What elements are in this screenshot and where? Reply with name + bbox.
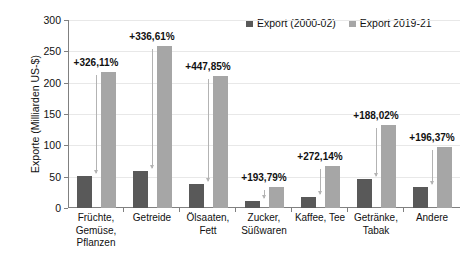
bar-export-2000-02 [357, 179, 372, 208]
bar-export-2000-02 [301, 197, 316, 208]
bar-export-2000-02 [413, 187, 428, 208]
y-tick-label: 200 [43, 77, 61, 89]
y-tick-label: 0 [55, 202, 61, 214]
x-axis-category-line: Andere [404, 212, 460, 225]
x-axis-category-line: Früchte, [68, 212, 124, 225]
growth-percentage-label: +196,37% [409, 132, 454, 143]
growth-percentage-label: +336,61% [129, 31, 174, 42]
bar-group: +196,37% [404, 20, 460, 208]
bar-chart: Export (2000-02) Export 2019-21 Exporte … [0, 0, 471, 268]
growth-percentage-label: +272,14% [297, 151, 342, 162]
x-axis-category-line: Kaffee, Tee [292, 212, 348, 225]
x-axis-category-line: Tabak [348, 225, 404, 238]
bar-group: +272,14% [292, 20, 348, 208]
growth-arrow-icon [96, 75, 97, 173]
x-axis-labels: Früchte,Gemüse,PflanzenGetreideÖlsaaten,… [68, 212, 460, 250]
growth-percentage-label: +326,11% [74, 57, 119, 68]
bar-export-2019-21 [157, 46, 172, 208]
y-tick-label: 150 [43, 108, 61, 120]
plot-area: 050100150200250300 +326,11%+336,61%+447,… [68, 20, 460, 208]
bar-export-2000-02 [245, 201, 260, 208]
y-tick-label: 50 [49, 171, 61, 183]
y-tick-mark [64, 208, 68, 209]
growth-percentage-label: +188,02% [353, 110, 398, 121]
x-axis-category-line: Gemüse, [68, 225, 124, 238]
bar-export-2019-21 [381, 125, 396, 208]
y-axis-title: Exporte (Milliarden US-$) [29, 19, 41, 209]
x-axis-category-line: Getränke, [348, 212, 404, 225]
bar-group: +336,61% [124, 20, 180, 208]
growth-percentage-label: +447,85% [185, 61, 230, 72]
x-axis-category-line: Süßwaren [236, 225, 292, 238]
x-axis-category-label: Früchte,Gemüse,Pflanzen [68, 212, 124, 250]
bar-export-2019-21 [269, 187, 284, 208]
bar-export-2000-02 [77, 176, 92, 208]
bar-export-2019-21 [213, 76, 228, 208]
x-axis-category-label: Kaffee, Tee [292, 212, 348, 250]
x-axis-category-line: Fett [180, 225, 236, 238]
bar-group: +326,11% [68, 20, 124, 208]
x-axis-category-line: Pflanzen [68, 237, 124, 250]
x-axis-category-label: Zucker,Süßwaren [236, 212, 292, 250]
x-axis-category-line: Ölsaaten, [180, 212, 236, 225]
bar-group: +193,79% [236, 20, 292, 208]
bar-export-2019-21 [101, 72, 116, 208]
y-tick-label: 250 [43, 45, 61, 57]
y-tick-label: 300 [43, 14, 61, 26]
y-tick-label: 100 [43, 139, 61, 151]
growth-percentage-label: +193,79% [241, 172, 286, 183]
bar-export-2000-02 [189, 184, 204, 208]
x-axis-category-line: Getreide [124, 212, 180, 225]
bar-groups: +326,11%+336,61%+447,85%+193,79%+272,14%… [68, 20, 460, 208]
x-axis-category-label: Getreide [124, 212, 180, 250]
x-axis-category-label: Andere [404, 212, 460, 250]
growth-arrow-icon [432, 150, 433, 185]
bar-export-2019-21 [325, 166, 340, 208]
bar-group: +447,85% [180, 20, 236, 208]
growth-arrow-icon [208, 79, 209, 181]
x-axis-category-line: Zucker, [236, 212, 292, 225]
growth-arrow-icon [264, 190, 265, 198]
bar-export-2019-21 [437, 147, 452, 208]
x-axis-category-label: Ölsaaten,Fett [180, 212, 236, 250]
growth-arrow-icon [320, 169, 321, 194]
x-axis-category-label: Getränke,Tabak [348, 212, 404, 250]
growth-arrow-icon [376, 128, 377, 177]
growth-arrow-icon [152, 49, 153, 168]
bar-group: +188,02% [348, 20, 404, 208]
bar-export-2000-02 [133, 171, 148, 208]
